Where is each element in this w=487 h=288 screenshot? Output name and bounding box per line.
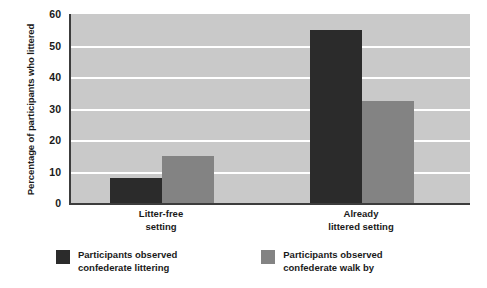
plot-area xyxy=(71,14,470,203)
y-axis-line xyxy=(69,14,71,205)
bar-chart-figure: Percentage of participants who littered … xyxy=(0,0,487,288)
y-tick-label-30: 30 xyxy=(17,103,61,115)
legend-item-littering: Participants observed confederate litter… xyxy=(56,249,177,274)
bar-litter-free-littering xyxy=(110,178,162,203)
y-tick-label-0: 0 xyxy=(17,197,61,209)
bar-litter-free-walkby xyxy=(162,156,214,203)
legend-label-littering: Participants observed confederate litter… xyxy=(78,249,177,274)
category-label-already-littered: Already littered setting xyxy=(281,208,441,233)
legend-label-walkby: Participants observed confederate walk b… xyxy=(283,249,382,274)
y-tick-label-60: 60 xyxy=(17,8,61,20)
gridline-50 xyxy=(71,46,470,48)
y-tick-label-20: 20 xyxy=(17,134,61,146)
legend-swatch-walkby xyxy=(261,250,275,264)
bar-already-littered-walkby xyxy=(362,101,414,203)
legend-swatch-littering xyxy=(56,250,70,264)
legend: Participants observed confederate litter… xyxy=(56,249,383,274)
category-label-litter-free: Litter-free setting xyxy=(81,208,241,233)
y-tick-label-50: 50 xyxy=(17,40,61,52)
gridline-40 xyxy=(71,77,470,79)
bar-already-littered-littering xyxy=(310,30,362,203)
y-tick-label-10: 10 xyxy=(17,166,61,178)
y-tick-label-40: 40 xyxy=(17,71,61,83)
x-axis-line xyxy=(69,203,470,205)
legend-item-walkby: Participants observed confederate walk b… xyxy=(261,249,382,274)
